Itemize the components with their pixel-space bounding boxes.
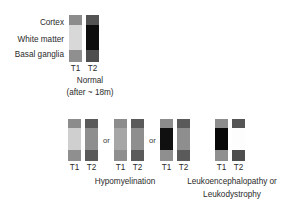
segment-white-matter xyxy=(85,128,98,151)
segment-basal-ganglia xyxy=(69,50,82,62)
segment-cortex xyxy=(85,119,98,128)
segment-white-matter xyxy=(232,128,245,151)
row-label-cortex: Cortex xyxy=(2,19,64,27)
row-label-basal-ganglia: Basal ganglia xyxy=(2,51,64,59)
segment-basal-ganglia xyxy=(114,150,127,161)
segment-basal-ganglia xyxy=(177,150,190,161)
segment-cortex xyxy=(177,119,190,128)
segment-basal-ganglia xyxy=(131,150,144,161)
ticks-normal: T1 T2 xyxy=(69,64,99,73)
caption-leukoencephalopathy-line2: Leukodystrophy xyxy=(178,191,286,199)
segment-cortex xyxy=(114,119,127,128)
segment-white-matter xyxy=(68,128,81,151)
tick-t1: T1 xyxy=(114,163,127,172)
bar-leukoencephalopathy-t1 xyxy=(215,119,228,161)
segment-cortex xyxy=(68,119,81,128)
bar-normal-t1 xyxy=(69,15,82,62)
ticks-hypomyelination-3: T1 T2 xyxy=(160,163,190,172)
tick-t1: T1 xyxy=(69,64,82,73)
segment-white-matter xyxy=(177,128,190,151)
segment-cortex xyxy=(215,119,228,128)
segment-cortex xyxy=(69,15,82,25)
segment-basal-ganglia xyxy=(215,150,228,161)
tick-t2: T2 xyxy=(232,163,245,172)
or-label-2: or xyxy=(149,137,156,145)
bar-leukoencephalopathy-t2 xyxy=(232,119,245,161)
ticks-hypomyelination-1: T1 T2 xyxy=(68,163,98,172)
bar-hypomyelination-1-t1 xyxy=(68,119,81,161)
caption-normal-line2: (after ~ 18m) xyxy=(40,89,140,97)
segment-cortex xyxy=(232,119,245,128)
segment-cortex xyxy=(160,119,173,128)
bar-hypomyelination-3-t1 xyxy=(160,119,173,161)
bar-hypomyelination-2-t1 xyxy=(114,119,127,161)
tick-t2: T2 xyxy=(131,163,144,172)
segment-white-matter xyxy=(160,128,173,151)
bar-hypomyelination-1-t2 xyxy=(85,119,98,161)
caption-normal-line1: Normal xyxy=(40,77,140,85)
or-label-1: or xyxy=(103,137,110,145)
segment-white-matter xyxy=(69,25,82,50)
bar-hypomyelination-3-t2 xyxy=(177,119,190,161)
row-label-white-matter: White matter xyxy=(2,36,64,44)
tick-t2: T2 xyxy=(86,64,99,73)
caption-leukoencephalopathy-line1: Leukoencephalopathy or xyxy=(178,178,286,186)
bar-normal-t2 xyxy=(86,15,99,62)
bar-hypomyelination-2-t2 xyxy=(131,119,144,161)
tick-t1: T1 xyxy=(160,163,173,172)
segment-basal-ganglia xyxy=(86,50,99,62)
segment-basal-ganglia xyxy=(68,150,81,161)
tick-t2: T2 xyxy=(177,163,190,172)
ticks-hypomyelination-2: T1 T2 xyxy=(114,163,144,172)
tick-t1: T1 xyxy=(215,163,228,172)
ticks-leukoencephalopathy: T1 T2 xyxy=(215,163,245,172)
segment-cortex xyxy=(86,15,99,25)
segment-white-matter xyxy=(131,128,144,151)
segment-white-matter xyxy=(215,128,228,151)
mri-signal-diagram: Cortex White matter Basal ganglia T1 T2 … xyxy=(0,0,286,204)
caption-hypomyelination: Hypomyelination xyxy=(55,178,195,186)
segment-cortex xyxy=(131,119,144,128)
tick-t2: T2 xyxy=(85,163,98,172)
tick-t1: T1 xyxy=(68,163,81,172)
segment-white-matter xyxy=(86,25,99,50)
segment-basal-ganglia xyxy=(85,150,98,161)
segment-basal-ganglia xyxy=(232,150,245,161)
segment-basal-ganglia xyxy=(160,150,173,161)
segment-white-matter xyxy=(114,128,127,151)
